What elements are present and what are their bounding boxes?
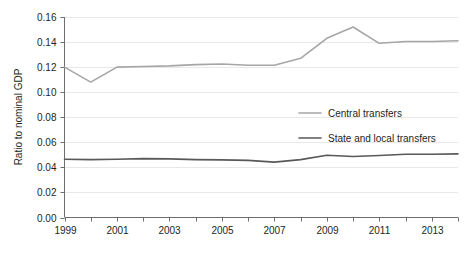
y-axis-tick-label: 0.00 <box>37 213 57 224</box>
y-axis-tick-label: 0.10 <box>37 87 57 98</box>
x-axis-tick-label: 1999 <box>54 225 77 236</box>
x-axis-tick-label: 2011 <box>369 225 391 236</box>
y-axis-tick-label: 0.14 <box>37 37 57 48</box>
y-axis-tick-label: 0.04 <box>37 162 57 173</box>
y-axis-tick-label: 0.16 <box>37 12 57 23</box>
y-axis-tick-label: 0.06 <box>37 137 57 148</box>
legend-label: State and local transfers <box>328 133 436 144</box>
x-axis-tick-label: 2005 <box>211 225 234 236</box>
y-axis-tick-label: 0.12 <box>37 62 57 73</box>
y-axis-title: Ratio to nominal GDP <box>13 68 24 165</box>
x-axis-tick-label: 2003 <box>158 225 181 236</box>
y-axis-tick-label: 0.02 <box>37 187 57 198</box>
legend-label: Central transfers <box>328 108 402 119</box>
x-axis-tick-label: 2013 <box>421 225 444 236</box>
line-chart: 0.000.020.040.060.080.100.120.140.16 199… <box>0 0 472 257</box>
x-axis-tick-label: 2007 <box>263 225 286 236</box>
chart-container: 0.000.020.040.060.080.100.120.140.16 199… <box>0 0 472 257</box>
x-axis-tick-label: 2001 <box>106 225 129 236</box>
x-axis-tick-label: 2009 <box>316 225 339 236</box>
y-axis-tick-label: 0.08 <box>37 112 57 123</box>
y-axis-tick-labels: 0.000.020.040.060.080.100.120.140.16 <box>37 12 57 224</box>
chart-background <box>0 0 472 257</box>
